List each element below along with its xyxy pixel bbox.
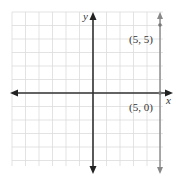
point-5-0 [158, 91, 162, 95]
y-axis-up-arrow-icon [90, 12, 97, 20]
x-axis-label: x [165, 94, 171, 106]
point-5-5 [158, 23, 162, 27]
x-axis-left-arrow-icon [10, 90, 18, 97]
line-down-arrow-icon [157, 167, 163, 174]
point-label-5-0: (5, 0) [129, 101, 153, 114]
y-axis: y [82, 10, 97, 174]
point-label-5-5: (5, 5) [129, 33, 153, 46]
y-axis-down-arrow-icon [90, 166, 97, 174]
line-up-arrow-icon [157, 12, 163, 19]
coordinate-plane: x y (5, 5) (5, 0) [0, 0, 176, 178]
y-axis-label: y [82, 10, 88, 22]
